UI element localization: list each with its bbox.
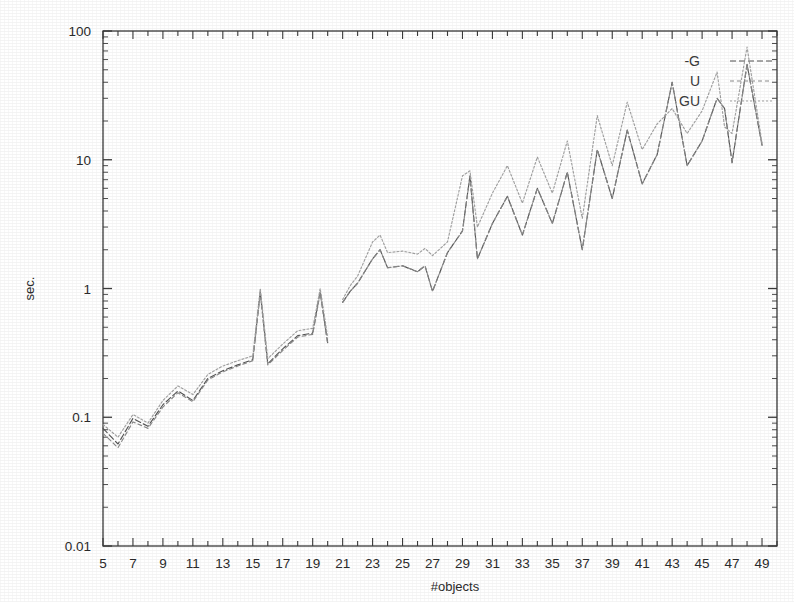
x-tick-label: 13 [215, 556, 230, 571]
x-tick-label: 15 [245, 556, 260, 571]
x-tick-label: 49 [755, 556, 770, 571]
y-tick-label: 0.1 [72, 410, 91, 425]
x-tick-label: 37 [575, 556, 590, 571]
y-tick-label: 0.01 [65, 539, 91, 554]
x-tick-label: 17 [275, 556, 290, 571]
plot-frame [103, 31, 777, 546]
x-tick-label: 27 [425, 556, 440, 571]
chart-container: 5791113151719212325272931333537394143454… [0, 0, 794, 602]
legend-label-u: U [690, 73, 700, 89]
x-tick-label: 43 [665, 556, 680, 571]
x-tick-label: 7 [129, 556, 137, 571]
x-tick-label: 19 [305, 556, 320, 571]
y-tick-label: 10 [76, 153, 91, 168]
series-line-g [103, 64, 762, 444]
x-tick-label: 41 [635, 556, 650, 571]
x-tick-label: 47 [725, 556, 740, 571]
x-tick-label: 25 [395, 556, 410, 571]
line-chart: 5791113151719212325272931333537394143454… [0, 0, 794, 602]
x-tick-label: 9 [159, 556, 167, 571]
legend-label-g: -G [684, 53, 700, 69]
x-tick-label: 29 [455, 556, 470, 571]
x-tick-label: 21 [335, 556, 350, 571]
legend-label-gu: GU [679, 93, 700, 109]
x-tick-label: 33 [515, 556, 530, 571]
x-tick-label: 5 [99, 556, 107, 571]
x-tick-label: 23 [365, 556, 380, 571]
x-tick-label: 11 [186, 556, 200, 571]
x-tick-label: 39 [605, 556, 620, 571]
y-tick-label: 100 [68, 24, 91, 39]
y-tick-label: 1 [83, 282, 91, 297]
x-tick-label: 45 [695, 556, 710, 571]
series-line-gu [103, 47, 762, 437]
y-axis-title: sec. [22, 277, 37, 301]
x-axis-title: #objects [431, 579, 480, 594]
x-tick-label: 31 [485, 556, 500, 571]
x-tick-label: 35 [545, 556, 560, 571]
